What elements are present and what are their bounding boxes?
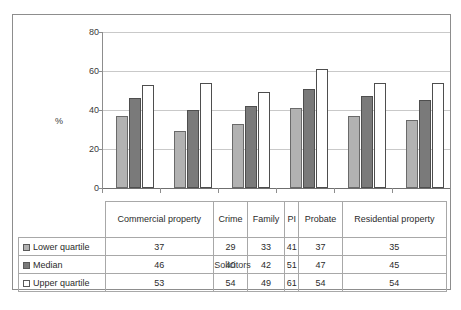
table-row: Lower quartile372933413735 [19, 238, 447, 256]
table-row: Upper quartile535449615454 [19, 274, 447, 292]
y-tick-label-60: 60 [75, 67, 99, 76]
bar-lower [116, 116, 128, 188]
legend-label-text: Lower quartile [33, 242, 90, 252]
bar-median [303, 89, 315, 188]
table-value-cell: 29 [214, 238, 248, 256]
bar-lower [232, 124, 244, 188]
bar-upper [142, 85, 154, 188]
legend-label-cell: Upper quartile [19, 274, 106, 292]
bars-layer [102, 32, 450, 188]
y-tick-label-20: 20 [75, 145, 99, 154]
category-header-cell: Probate [299, 202, 342, 238]
y-tick-label-40: 40 [75, 106, 99, 115]
bar-upper [258, 92, 270, 188]
white-swatch-icon [23, 280, 30, 287]
legend-label-cell: Lower quartile [19, 238, 106, 256]
table-value-cell: 54 [299, 274, 342, 292]
category-header-cell: PI [284, 202, 298, 238]
plot-region: % 80 60 40 20 0 [13, 15, 452, 201]
bar-group [276, 32, 334, 188]
y-tick-label-0: 0 [75, 184, 99, 193]
bar-group [160, 32, 218, 188]
category-header-cell: Residential property [342, 202, 446, 238]
category-header-cell: Crime [214, 202, 248, 238]
table-value-cell: 41 [284, 238, 298, 256]
y-tick-labels: 80 60 40 20 0 [69, 15, 99, 201]
group-separator [276, 188, 277, 193]
table-value-cell: 61 [284, 274, 298, 292]
bar-group [392, 32, 450, 188]
bar-median [187, 110, 199, 188]
y-axis-title: % [55, 116, 63, 126]
table-corner-cell [19, 202, 106, 238]
bar-median [419, 100, 431, 188]
bar-group [218, 32, 276, 188]
table-value-cell: 33 [247, 238, 284, 256]
bar-median [129, 98, 141, 188]
light-gray-swatch-icon [23, 244, 30, 251]
table-header-row: Commercial propertyCrimeFamilyPIProbateR… [19, 202, 447, 238]
group-separator [334, 188, 335, 193]
legend-label-text: Upper quartile [33, 278, 90, 288]
bar-lower [174, 131, 186, 188]
table-value-cell: 49 [247, 274, 284, 292]
bar-group [334, 32, 392, 188]
table-value-cell: 35 [342, 238, 446, 256]
chart-data-table: Commercial propertyCrimeFamilyPIProbateR… [18, 201, 447, 292]
table-value-cell: 37 [299, 238, 342, 256]
bar-median [245, 106, 257, 188]
x-axis-title: Solicitors [13, 260, 452, 270]
bar-group [102, 32, 160, 188]
y-tick-label-80: 80 [75, 28, 99, 37]
group-separator [102, 188, 103, 193]
bar-upper [432, 83, 444, 188]
bar-lower [348, 116, 360, 188]
category-header-cell: Commercial property [105, 202, 214, 238]
table-value-cell: 54 [214, 274, 248, 292]
bar-upper [200, 83, 212, 188]
table-value-cell: 53 [105, 274, 214, 292]
bar-median [361, 96, 373, 188]
table-value-cell: 54 [342, 274, 446, 292]
chart-figure-frame: % 80 60 40 20 0 Comme [12, 14, 451, 290]
bar-lower [406, 120, 418, 188]
group-separator [218, 188, 219, 193]
table-value-cell: 37 [105, 238, 214, 256]
group-separator [160, 188, 161, 193]
group-separator [392, 188, 393, 193]
bar-upper [374, 83, 386, 188]
bar-upper [316, 69, 328, 188]
bar-lower [290, 108, 302, 188]
group-separator [450, 188, 451, 193]
category-header-cell: Family [247, 202, 284, 238]
